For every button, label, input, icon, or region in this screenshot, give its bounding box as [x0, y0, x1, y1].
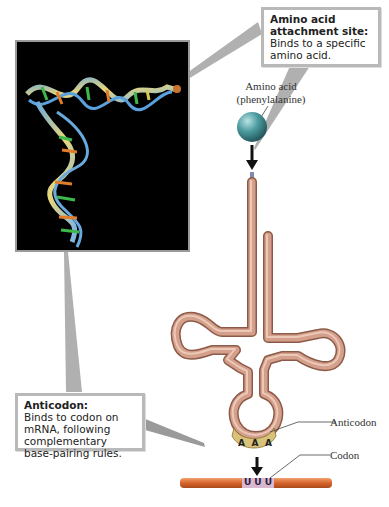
codon-base-3: U — [265, 477, 272, 487]
codon-leader-line — [270, 455, 330, 478]
codon-bases: U U U — [244, 477, 272, 487]
codon-label: Codon — [330, 449, 359, 462]
anticodon-label: Anticodon — [330, 416, 376, 429]
anticodon-base-2: A — [252, 438, 259, 448]
anticodon-callout-body: Binds to codon on mRNA, following comple… — [24, 411, 122, 459]
codon-base-2: U — [254, 477, 261, 487]
anticodon-bases: A A A — [238, 438, 272, 448]
anticodon-base-3: A — [265, 438, 272, 448]
arrow-down-to-mrna — [251, 457, 263, 476]
anticodon-callout: Anticodon: Binds to codon on mRNA, follo… — [15, 393, 145, 451]
codon-base-1: U — [244, 477, 251, 487]
trna-cloverleaf — [175, 181, 341, 436]
amino-acid-ball — [237, 112, 267, 142]
anticodon-callout-title: Anticodon: — [24, 399, 136, 411]
anticodon-base-1: A — [238, 438, 245, 448]
arrow-down-to-trna — [246, 145, 258, 170]
